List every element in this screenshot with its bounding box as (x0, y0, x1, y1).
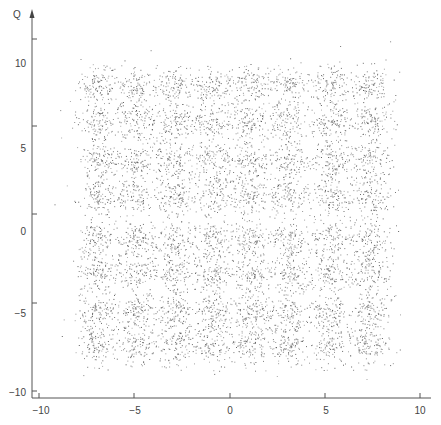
x-tick-label: 10 (414, 405, 426, 416)
y-tick-label: 0 (20, 226, 26, 237)
constellation-plot: Q 10 5 0 −5 −10 −10 −5 0 5 10 (0, 0, 441, 425)
x-tick-label: −5 (129, 405, 141, 416)
scatter-points (55, 41, 402, 380)
y-axis-arrow-icon (30, 9, 35, 18)
y-tick-label: −5 (15, 308, 27, 319)
y-tick-label: 5 (20, 143, 26, 154)
y-tick-label: −10 (9, 387, 26, 398)
x-tick-label: 5 (323, 405, 329, 416)
y-ticks (32, 39, 37, 391)
x-tick-label: 0 (227, 405, 233, 416)
x-tick-label: −10 (33, 405, 50, 416)
x-ticks (39, 393, 420, 398)
y-axis-label: Q (13, 9, 21, 20)
y-tick-label: 10 (15, 58, 27, 69)
